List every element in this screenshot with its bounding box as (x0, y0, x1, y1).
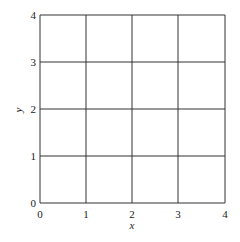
x-tick: 0 (37, 208, 43, 220)
y-tick: 0 (31, 197, 37, 209)
grid-lines (40, 15, 225, 203)
chart: 0 1 2 3 4 0 1 2 3 4 x y (0, 0, 240, 242)
x-axis-label: x (129, 219, 135, 231)
y-axis-label: y (12, 107, 24, 113)
x-tick: 4 (222, 208, 228, 220)
y-tick: 3 (31, 56, 37, 68)
x-tick: 1 (83, 208, 89, 220)
y-tick: 4 (31, 9, 37, 21)
x-tick: 3 (175, 208, 181, 220)
y-tick: 1 (31, 150, 37, 162)
y-tick-labels: 0 1 2 3 4 (31, 9, 37, 209)
y-tick: 2 (31, 103, 37, 115)
